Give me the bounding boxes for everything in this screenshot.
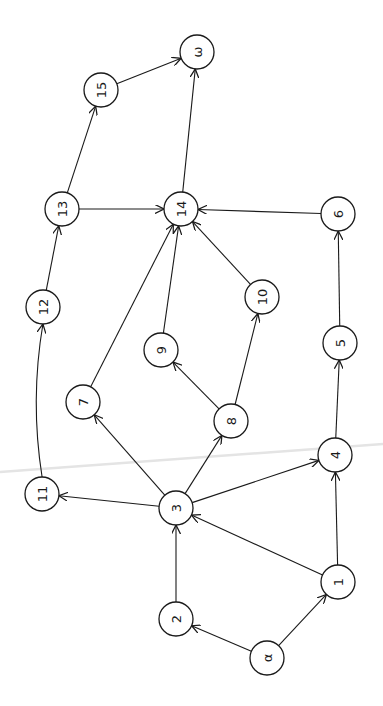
network-diagram: ω151314612109578411312α: [0, 0, 383, 706]
node-label: 13: [55, 201, 70, 218]
edge-14-to-omega: [183, 69, 196, 192]
node-5: 5: [323, 326, 357, 360]
node-7: 7: [66, 385, 100, 419]
node-label: 2: [169, 615, 184, 623]
edge-10-to-14: [193, 222, 251, 285]
edge-6-to-14: [198, 210, 321, 214]
edge-3-to-4: [192, 460, 319, 502]
nodes-layer: ω151314612109578411312α: [25, 35, 357, 675]
node-label: ω: [190, 47, 205, 58]
edge-12-to-13: [46, 226, 59, 291]
node-13: 13: [45, 192, 79, 226]
node-9: 9: [144, 333, 178, 367]
node-label: 9: [154, 346, 169, 354]
node-omega: ω: [180, 35, 214, 69]
node-label: 6: [331, 210, 346, 218]
edge-5-to-6: [338, 231, 339, 326]
edge-9-to-14: [163, 226, 178, 333]
node-label: 15: [94, 82, 109, 99]
node-label: 11: [35, 486, 50, 503]
node-10: 10: [245, 280, 279, 314]
edge-alpha-to-2: [192, 626, 252, 652]
edge-3-to-7: [94, 415, 165, 495]
node-label: 3: [169, 504, 184, 512]
edge-3-to-8: [185, 435, 222, 493]
node-label: 1: [331, 578, 346, 586]
edge-1-to-4: [335, 472, 337, 565]
node-8: 8: [214, 404, 248, 438]
node-label: 12: [36, 299, 51, 316]
edge-4-to-5: [336, 360, 339, 438]
node-alpha: α: [250, 641, 284, 675]
node-label: 7: [76, 398, 91, 406]
node-1: 1: [321, 565, 355, 599]
node-3: 3: [159, 491, 193, 525]
edge-8-to-10: [235, 313, 258, 404]
edge-3-to-11: [59, 496, 159, 506]
node-4: 4: [318, 438, 352, 472]
node-12: 12: [26, 290, 60, 324]
node-15: 15: [84, 73, 118, 107]
edge-alpha-to-1: [279, 594, 327, 645]
node-label: 14: [174, 201, 189, 218]
node-2: 2: [159, 602, 193, 636]
node-6: 6: [321, 197, 355, 231]
edge-11-to-12: [36, 324, 43, 477]
node-label: 8: [224, 417, 239, 425]
edges-layer: [36, 58, 339, 651]
node-label: 10: [255, 289, 270, 306]
edge-1-to-3: [191, 515, 322, 575]
edge-15-to-omega: [117, 58, 181, 83]
edge-13-to-15: [67, 106, 95, 193]
node-14: 14: [164, 192, 198, 226]
node-11: 11: [25, 477, 59, 511]
edge-8-to-9: [173, 362, 219, 409]
node-label: α: [260, 654, 275, 663]
node-label: 4: [328, 451, 343, 459]
node-label: 5: [333, 339, 348, 347]
